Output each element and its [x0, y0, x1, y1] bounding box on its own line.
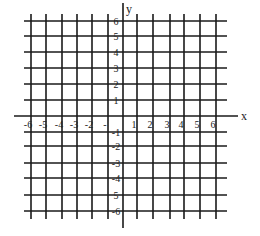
x-tick-label: -2 — [85, 119, 93, 130]
y-tick-label: -3 — [112, 158, 120, 169]
x-tick-label: 3 — [165, 119, 170, 130]
x-tick-label: -3 — [70, 119, 78, 130]
x-tick-label: 2 — [148, 119, 153, 130]
y-tick-label: 3 — [114, 63, 119, 74]
y-axis-label: y — [126, 2, 132, 16]
y-tick-label: -2 — [112, 141, 120, 152]
y-tick-label: 2 — [114, 79, 119, 90]
x-tick-label: -4 — [55, 119, 63, 130]
y-tick-label: 1 — [114, 95, 119, 106]
x-tick-label: 6 — [211, 119, 216, 130]
x-tick-label: 1 — [132, 119, 137, 130]
y-tick-label: 5 — [114, 190, 119, 201]
x-tick-label: 5 — [195, 119, 200, 130]
coordinate-plane: x y -6-5-4-3-2-123456 654321-1-2-3-45-6 — [0, 0, 260, 236]
y-tick-label: 5 — [114, 31, 119, 42]
x-tick-label: -6 — [24, 119, 32, 130]
y-tick-label: -6 — [112, 206, 120, 217]
y-tick-label: -1 — [112, 127, 120, 138]
y-tick-label: 6 — [114, 16, 119, 27]
x-tick-label: -5 — [39, 119, 47, 130]
y-tick-label: 4 — [114, 47, 119, 58]
x-axis-label: x — [241, 109, 247, 123]
x-tick-label: - — [103, 119, 106, 130]
x-tick-label: 4 — [179, 119, 184, 130]
y-tick-label: -4 — [112, 173, 120, 184]
